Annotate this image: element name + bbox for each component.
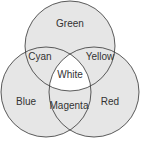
label-cyan: Cyan [28,51,51,62]
label-red: Red [101,96,119,107]
venn-diagram: Green Cyan Yellow White Blue Magenta Red [0,0,141,148]
label-yellow: Yellow [86,51,115,62]
label-magenta: Magenta [50,100,89,111]
label-green: Green [56,18,84,29]
label-white: White [57,69,83,80]
label-blue: Blue [16,96,36,107]
